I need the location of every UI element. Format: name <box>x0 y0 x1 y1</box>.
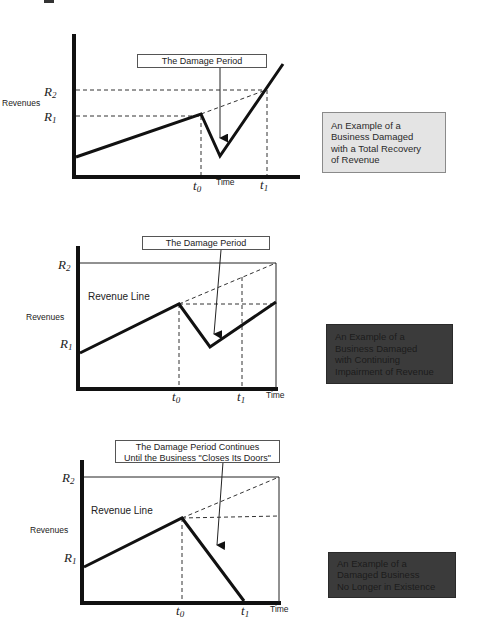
caption-line: Business Damaged <box>335 343 434 355</box>
t0-label: t0 <box>193 178 202 194</box>
t0-label: t0 <box>176 603 185 619</box>
cropped-title-fragment <box>44 0 54 3</box>
r1-label: R1 <box>63 550 76 566</box>
y-axis-label: Revenues <box>30 525 68 535</box>
y-axis-label: Revenues <box>2 98 40 108</box>
caption-line: Business Damaged <box>331 131 421 143</box>
caption-line: An Example of a <box>337 558 435 570</box>
revenue-line <box>76 64 283 157</box>
damage-period-callout: The Damage Period <box>142 236 270 250</box>
r1-label: R1 <box>59 336 72 352</box>
diagram-business-closed: R2 Revenue Line Revenues R1 t0 t1 Time <box>30 460 289 619</box>
caption-line: Damaged Business <box>337 569 435 581</box>
callout-text: The Damage Period <box>162 56 243 66</box>
pre-damage-level-line <box>182 516 279 518</box>
t1-label: t1 <box>237 389 245 405</box>
x-axis-label: Time <box>216 177 235 187</box>
caption-line: with a Total Recovery <box>331 143 421 155</box>
series-label: Revenue Line <box>88 291 150 302</box>
y-axis-label: Revenues <box>26 312 64 322</box>
damage-arrow-icon <box>217 462 223 545</box>
r2-label: R2 <box>61 470 75 486</box>
revenue-line <box>80 302 276 353</box>
x-axis-label: Time <box>270 604 289 614</box>
r2-label: R2 <box>57 257 71 273</box>
caption-line: An Example of a <box>335 331 434 343</box>
caption-line: No Longer in Existence <box>337 581 435 593</box>
projected-revenue-line <box>182 477 279 518</box>
callout-text-line: The Damage Period Continues <box>116 442 279 453</box>
diagram-continuing-impairment: R2 Revenue Line Revenues R1 t0 t1 Time <box>26 246 285 405</box>
r2-label: R2 <box>43 84 57 100</box>
series-label: Revenue Line <box>91 505 153 516</box>
revenue-line <box>84 518 244 601</box>
caption-line: An Example of a <box>331 120 421 132</box>
r1-label: R1 <box>43 109 56 125</box>
caption-line: Impairment of Revenue <box>335 366 434 378</box>
figure-canvas: R2 Revenues R1 t0 Time t1 R2 Revenue Lin… <box>0 0 482 644</box>
callout-text-line: Until the Business "Closes Its Doors" <box>116 453 279 464</box>
damage-period-callout: The Damage Period <box>137 54 267 68</box>
t1-label: t1 <box>241 603 249 619</box>
caption-business-closed: An Example of a Damaged Business No Long… <box>328 552 456 598</box>
x-axis-label: Time <box>266 390 285 400</box>
damage-period-continues-callout: The Damage Period Continues Until the Bu… <box>115 440 280 463</box>
caption-line: of Revenue <box>331 154 421 166</box>
caption-total-recovery: An Example of a Business Damaged with a … <box>322 112 446 173</box>
t1-label: t1 <box>260 177 268 193</box>
caption-continuing-impairment: An Example of a Business Damaged with Co… <box>326 324 453 384</box>
t0-label: t0 <box>172 389 181 405</box>
callout-text: The Damage Period <box>166 238 247 248</box>
caption-line: with Continuing <box>335 354 434 366</box>
projected-revenue-line <box>179 263 276 304</box>
